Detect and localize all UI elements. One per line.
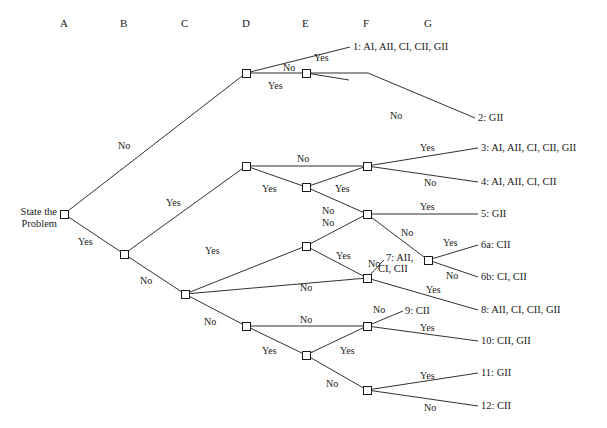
- start-label: State the Problem: [11, 206, 57, 230]
- outcome-text: 9: CII: [405, 305, 430, 316]
- edge-label: No: [204, 316, 216, 327]
- outcome-text: 10: CII, GII: [481, 335, 531, 346]
- edge-b-d2: [124, 166, 246, 254]
- edge-label: Yes: [426, 284, 441, 295]
- column-header-e: E: [302, 17, 309, 29]
- outcome-text: 5: GII: [481, 208, 506, 219]
- outcome-text: 2: GII: [478, 112, 503, 123]
- edge-label: No: [446, 270, 458, 281]
- edge-label: No: [140, 275, 152, 286]
- edge-label: Yes: [420, 201, 435, 212]
- edge-label: No: [283, 62, 295, 73]
- edge-label: Yes: [314, 52, 329, 63]
- edge-label: Yes: [262, 183, 277, 194]
- start-label-line1: State the: [11, 206, 57, 218]
- decision-node-d1: [242, 69, 251, 78]
- decision-node-e2: [302, 183, 311, 192]
- decision-node-d2: [242, 162, 251, 171]
- edge-d1-o1: [246, 47, 350, 73]
- edge-f1-o4: [367, 166, 478, 182]
- column-header-f: F: [363, 17, 369, 29]
- outcome-10: 10: CII, GII: [481, 335, 531, 346]
- edge-c-e3: [185, 246, 306, 294]
- outcome-text: 11: GII: [481, 367, 511, 378]
- edge-label: No: [373, 304, 385, 315]
- edge-label: Yes: [443, 237, 458, 248]
- decision-node-f2: [363, 210, 372, 219]
- decision-node-e3: [302, 242, 311, 251]
- edge-label: Yes: [268, 80, 283, 91]
- decision-node-f1: [363, 162, 372, 171]
- decision-node-a: [60, 210, 69, 219]
- outcome-3: 3: AI, AII, CI, CII, GII: [481, 142, 576, 153]
- edge-label: Yes: [336, 250, 351, 261]
- outcome-text: 6a: CII: [481, 239, 510, 250]
- edge-label: No: [300, 282, 312, 293]
- decision-node-b: [120, 250, 129, 259]
- outcome-text: 6b: CI, CII: [481, 271, 527, 282]
- outcome-6a: 6a: CII: [481, 239, 510, 250]
- edge-e4-f4: [306, 326, 367, 355]
- edge-label: Yes: [420, 322, 435, 333]
- outcome-5: 5: GII: [481, 208, 506, 219]
- edge-label: No: [424, 402, 436, 413]
- edge-b-c: [124, 254, 185, 294]
- outcome-text: 3: AI, AII, CI, CII, GII: [481, 142, 576, 153]
- outcome-8: 8: AII, CI, CII, GII: [481, 304, 561, 315]
- decision-tree-lines: [0, 0, 607, 428]
- outcome-9: 9: CII: [405, 305, 430, 316]
- edge-c-f3: [185, 278, 367, 294]
- decision-node-c: [181, 290, 190, 299]
- edge-label: No: [390, 110, 402, 121]
- edge-a-b: [64, 214, 124, 254]
- outcome-text: 1: AI, AII, CI, CII, GII: [353, 41, 448, 52]
- start-label-line2: Problem: [11, 218, 57, 230]
- edge-label: Yes: [262, 345, 277, 356]
- edge-label: Yes: [335, 183, 350, 194]
- outcome-7: 7: AII,CI, CII: [386, 252, 413, 274]
- edge-label: No: [322, 217, 334, 228]
- outcome-11: 11: GII: [481, 367, 511, 378]
- edge-e3-f2: [306, 214, 367, 246]
- outcome-text: 4: AI, AII, CI, CII: [481, 176, 557, 187]
- decision-node-d3: [242, 322, 251, 331]
- outcome-text-line2: CI, CII: [378, 263, 413, 274]
- edge-label: No: [300, 314, 312, 325]
- column-header-a: A: [60, 17, 68, 29]
- decision-node-g1: [424, 256, 433, 265]
- edge-label: Yes: [340, 345, 355, 356]
- edge-label: No: [326, 378, 338, 389]
- edge-label: Yes: [78, 236, 93, 247]
- outcome-6b: 6b: CI, CII: [481, 271, 527, 282]
- outcome-text: 7: AII,: [386, 252, 413, 263]
- edge-label: Yes: [166, 197, 181, 208]
- column-header-b: B: [120, 17, 127, 29]
- edge-e1-yesstub: [306, 73, 349, 80]
- decision-node-f5: [363, 386, 372, 395]
- edge-label: No: [297, 153, 309, 164]
- column-header-g: G: [424, 17, 432, 29]
- edge-label: No: [424, 177, 436, 188]
- outcome-2: 2: GII: [478, 112, 503, 123]
- decision-node-f3: [363, 274, 372, 283]
- decision-node-f4: [363, 322, 372, 331]
- column-header-c: C: [181, 17, 188, 29]
- edge-label: Yes: [205, 245, 220, 256]
- edge-label: No: [118, 140, 130, 151]
- decision-node-e4: [302, 351, 311, 360]
- edge-label: Yes: [420, 142, 435, 153]
- edge-label: No: [401, 227, 413, 238]
- outcome-12: 12: CII: [481, 400, 511, 411]
- edge-a-d1: [64, 73, 246, 214]
- outcome-text: 8: AII, CI, CII, GII: [481, 304, 561, 315]
- edge-f5-o12: [367, 390, 478, 406]
- outcome-text: 12: CII: [481, 400, 511, 411]
- decision-node-e1: [302, 69, 311, 78]
- column-header-d: D: [242, 17, 250, 29]
- edge-label: No: [322, 205, 334, 216]
- outcome-4: 4: AI, AII, CI, CII: [481, 176, 557, 187]
- outcome-1: 1: AI, AII, CI, CII, GII: [353, 41, 448, 52]
- edge-label: Yes: [420, 370, 435, 381]
